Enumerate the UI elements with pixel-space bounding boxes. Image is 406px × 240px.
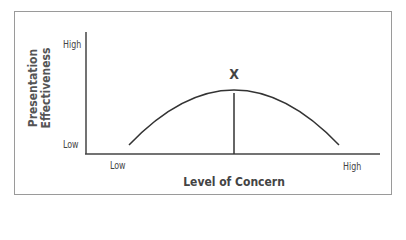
y-axis-low-label: Low xyxy=(63,138,79,151)
y-axis-high-label: High xyxy=(63,38,81,51)
peak-marker: X xyxy=(229,66,239,82)
y-axis-title-line2: Effectiveness xyxy=(40,48,53,129)
x-axis-low-label: Low xyxy=(110,159,126,172)
x-axis-title: Level of Concern xyxy=(183,175,285,189)
x-axis-high-label: High xyxy=(343,160,361,173)
y-axis-title: Presentation Effectiveness xyxy=(27,48,53,129)
